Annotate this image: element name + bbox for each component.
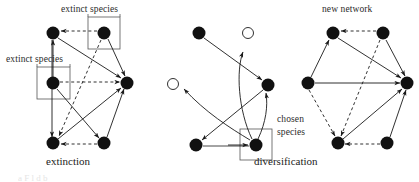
chosen-species-line2-label: species [277,127,305,138]
node-left-extinct [47,77,60,90]
panel-extinction [37,14,134,150]
node-top-right-empty [243,28,254,39]
node-chosen [250,139,263,152]
edges-straight-mid [202,38,263,146]
node-left-empty [168,79,179,90]
node-top-right [377,27,390,40]
figure-footer-caption-partial: a F l d b [18,173,48,182]
node-bottom-left [47,137,60,150]
node-bottom-left [332,137,345,150]
node-bottom-right [381,137,394,150]
panel-diversification [168,27,275,161]
caption-diversification: diversification [254,155,318,167]
nodes-new-network [302,27,414,150]
edges-dashed-right [309,31,380,144]
node-top-left [327,27,340,40]
nodes-diversification [168,27,275,152]
node-right [262,79,275,92]
node-left [302,77,315,90]
extinct-species-top-label: extinct species [61,4,118,15]
figure-root: extinct species extinct species chosen s… [0,0,419,182]
edges-curved-mid [184,52,267,140]
node-top-left [193,27,206,40]
node-right [121,77,134,90]
caption-extinction: extinction [46,155,90,167]
node-top-left [47,27,60,40]
edges-solid-right [311,38,406,139]
extinct-species-left-label: extinct species [6,54,63,65]
node-right [401,77,414,90]
node-bottom-left [190,139,203,152]
chosen-species-line1-label: chosen [277,114,304,125]
new-network-label: new network [322,4,372,15]
panel-new-network [302,27,414,150]
edges-dashed [59,31,101,144]
node-bottom-right [98,137,111,150]
node-top-right-extinct [98,27,111,40]
